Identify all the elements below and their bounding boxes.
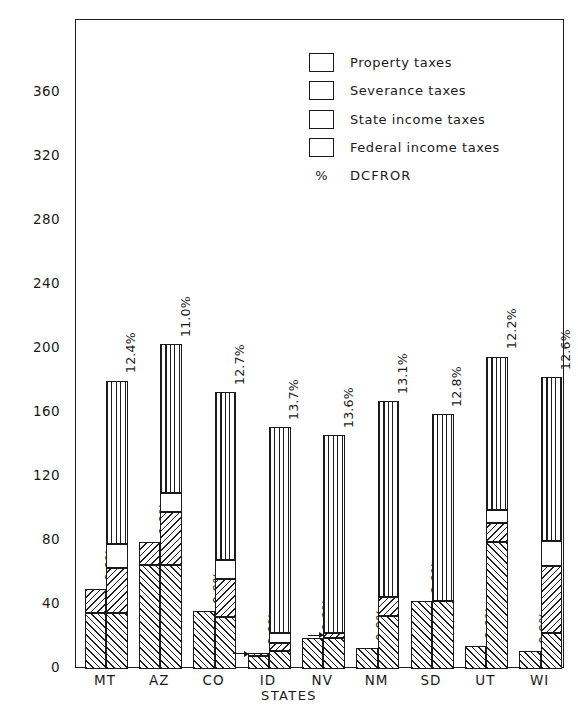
bar-az-with-federal	[160, 344, 182, 669]
bar-segment-property-taxes	[85, 613, 107, 669]
bar-segment-property-taxes	[160, 565, 182, 669]
bar-segment-severance-taxes	[248, 653, 270, 656]
y-axis-tick-label: 40	[8, 595, 60, 611]
x-axis-label-co: CO	[192, 672, 236, 688]
bar-segment-property-taxes	[356, 648, 378, 669]
bar-segment-severance-taxes	[541, 566, 563, 633]
bar-segment-severance-taxes	[139, 542, 161, 564]
y-axis-tick-label: 0	[8, 659, 60, 675]
dcfror-label-ut-with-federal: 12.2%	[504, 309, 519, 350]
legend-swatch-property-taxes-icon	[309, 53, 334, 72]
x-axis-label-wi: WI	[518, 672, 562, 688]
legend: Property taxes Severance taxes State inc…	[309, 50, 500, 186]
bar-segment-property-taxes	[486, 542, 508, 668]
legend-label-dcfror: DCFROR	[350, 168, 411, 183]
bar-segment-state-income-taxes	[215, 560, 237, 579]
bar-co-with-federal	[215, 392, 237, 669]
bar-segment-federal-income-taxes	[215, 392, 237, 560]
bar-segment-property-taxes	[248, 656, 270, 669]
bar-segment-severance-taxes	[486, 523, 508, 542]
legend-swatch-severance-taxes-icon	[309, 81, 334, 100]
bar-segment-property-taxes	[269, 651, 291, 669]
bar-segment-property-taxes	[519, 651, 541, 669]
legend-item-federal-income-taxes: Federal income taxes	[309, 136, 500, 160]
bar-segment-severance-taxes	[269, 643, 291, 651]
y-axis-tick-label: 320	[8, 147, 60, 163]
x-axis-label-ut: UT	[463, 672, 507, 688]
y-axis-title: CUMULATIVE TAX PAYMENTS OVER THE LIFE OF…	[0, 0, 27, 28]
y-axis-tick-label: 120	[8, 467, 60, 483]
x-axis-label-az: AZ	[137, 672, 181, 688]
dcfror-label-az-with-federal: 11.0%	[178, 296, 193, 337]
x-axis-title: STATES	[0, 688, 578, 703]
legend-item-state-income-taxes: State income taxes	[309, 107, 500, 131]
bar-segment-state-income-taxes	[541, 541, 563, 567]
bar-segment-state-income-taxes	[486, 510, 508, 523]
bar-segment-severance-taxes	[215, 579, 237, 617]
bar-mt-state-only	[85, 589, 107, 669]
y-axis-tick-label: 360	[8, 83, 60, 99]
bar-segment-federal-income-taxes	[432, 414, 454, 601]
bar-nv-with-federal	[323, 435, 345, 669]
bar-segment-federal-income-taxes	[486, 357, 508, 511]
x-axis-label-mt: MT	[83, 672, 127, 688]
y-axis-tick-label: 160	[8, 403, 60, 419]
bar-segment-state-income-taxes	[269, 633, 291, 643]
bar-segment-severance-taxes	[160, 512, 182, 565]
y-axis-tick-label: 280	[8, 211, 60, 227]
bar-segment-severance-taxes	[378, 597, 400, 616]
legend-label-federal-income-taxes: Federal income taxes	[350, 140, 500, 155]
bar-ut-state-only	[465, 646, 487, 668]
annotation-arrow-id	[233, 653, 248, 654]
legend-swatch-state-income-taxes-icon	[309, 110, 334, 129]
bar-nm-state-only	[356, 648, 378, 669]
bar-segment-property-taxes	[378, 616, 400, 669]
bar-wi-state-only	[519, 651, 541, 669]
bar-wi-with-federal	[541, 377, 563, 668]
bar-segment-federal-income-taxes	[323, 435, 345, 633]
percent-symbol-icon: %	[309, 168, 334, 183]
legend-item-dcfror: % DCFROR	[309, 164, 500, 186]
y-axis-tick-label: 240	[8, 275, 60, 291]
bar-segment-property-taxes	[139, 565, 161, 669]
legend-label-severance-taxes: Severance taxes	[350, 83, 466, 98]
bar-ut-with-federal	[486, 357, 508, 669]
legend-swatch-federal-income-taxes-icon	[309, 138, 334, 157]
bar-az-state-only	[139, 542, 161, 668]
dcfror-label-sd-with-federal: 12.8%	[449, 366, 464, 407]
x-axis-label-id: ID	[246, 672, 290, 688]
dcfror-label-co-with-federal: 12.7%	[232, 344, 247, 385]
plot-area: 0.0%12.4%0.0%11.0%0.0%12.7%0.0%13.7%0.0%…	[75, 19, 564, 668]
bar-segment-property-taxes	[193, 611, 215, 669]
bar-segment-federal-income-taxes	[106, 381, 128, 544]
x-axis-label-nv: NV	[300, 672, 344, 688]
dcfror-label-nv-with-federal: 13.6%	[341, 387, 356, 428]
x-axis-label-sd: SD	[409, 672, 453, 688]
bar-segment-severance-taxes	[85, 589, 107, 613]
bar-segment-property-taxes	[411, 601, 433, 668]
dcfror-label-nm-with-federal: 13.1%	[395, 353, 410, 394]
bar-nm-with-federal	[378, 401, 400, 668]
bar-segment-property-taxes	[541, 633, 563, 668]
bar-nv-state-only	[302, 638, 324, 668]
bar-segment-state-income-taxes	[106, 544, 128, 568]
bar-segment-property-taxes	[465, 646, 487, 668]
legend-label-property-taxes: Property taxes	[350, 55, 452, 70]
chart-figure: CUMULATIVE TAX PAYMENTS OVER THE LIFE OF…	[0, 0, 578, 719]
bar-segment-state-income-taxes	[160, 493, 182, 512]
dcfror-label-id-with-federal: 13.7%	[286, 379, 301, 420]
bar-mt-with-federal	[106, 381, 128, 669]
x-axis-label-nm: NM	[355, 672, 399, 688]
legend-label-state-income-taxes: State income taxes	[350, 112, 485, 127]
dcfror-label-wi-with-federal: 12.6%	[558, 329, 573, 370]
bar-segment-property-taxes	[432, 601, 454, 668]
bar-segment-federal-income-taxes	[269, 427, 291, 633]
bar-segment-federal-income-taxes	[541, 377, 563, 540]
bar-segment-federal-income-taxes	[378, 401, 400, 596]
y-axis-tick-label: 200	[8, 339, 60, 355]
bar-id-with-federal	[269, 427, 291, 669]
bar-id-state-only	[248, 653, 270, 669]
bar-segment-property-taxes	[302, 638, 324, 668]
bar-segment-severance-taxes	[323, 633, 345, 638]
annotation-arrow-nv	[308, 635, 323, 636]
